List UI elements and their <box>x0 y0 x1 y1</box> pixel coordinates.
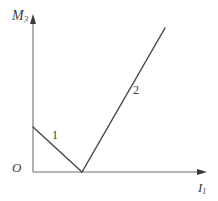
y-axis-arrow-icon <box>30 14 36 24</box>
plot-canvas <box>0 0 218 201</box>
y-axis-label: M3 <box>12 8 28 24</box>
y-axis-label-main: M <box>12 8 24 23</box>
y-axis-label-subscript: 3 <box>24 14 28 24</box>
data-line-2-label: 2 <box>133 83 139 98</box>
x-axis-label-subscript: 1 <box>202 187 206 196</box>
x-axis-label: I1 <box>198 180 206 196</box>
x-axis-arrow-icon <box>197 169 207 175</box>
data-line-2 <box>82 28 165 172</box>
origin-label: O <box>12 160 21 176</box>
graph-figure: M3 I1 O 1 2 <box>0 0 218 201</box>
data-line-1-label: 1 <box>52 128 58 143</box>
